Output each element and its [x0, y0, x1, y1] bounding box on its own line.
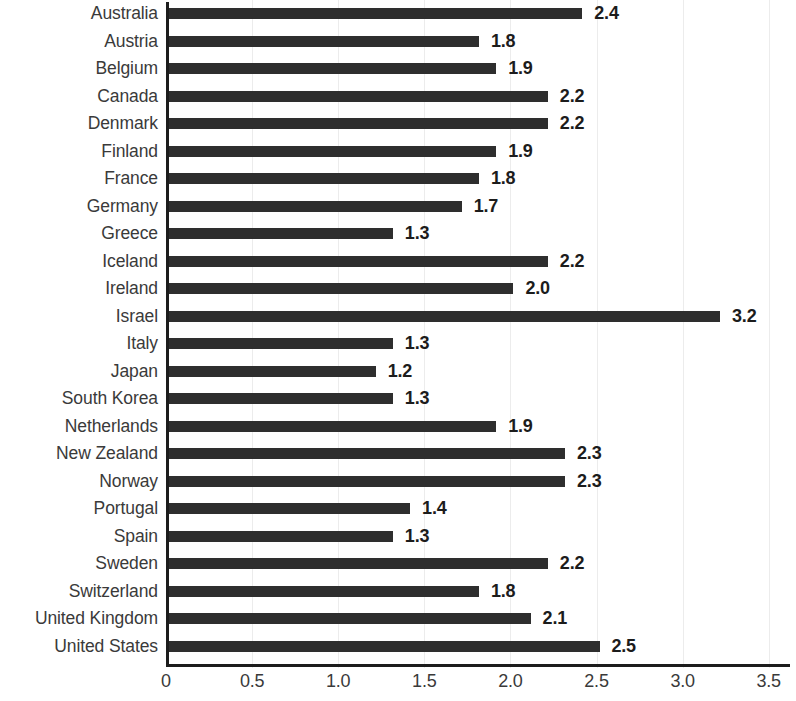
bar [169, 36, 479, 47]
bar-container [169, 578, 479, 606]
bar-container [169, 275, 513, 303]
x-axis-line [166, 664, 790, 667]
bar-value-label: 2.1 [543, 605, 567, 633]
bar [169, 476, 565, 487]
category-label: Greece [0, 220, 158, 248]
bar [169, 641, 600, 652]
category-label: United Kingdom [0, 605, 158, 633]
bar-container [169, 633, 600, 661]
bar-container [169, 138, 496, 166]
category-label: United States [0, 633, 158, 661]
bar-value-label: 2.2 [560, 248, 584, 276]
bar-container [169, 220, 393, 248]
x-tick-label: 1.0 [326, 671, 350, 692]
bar-row: Italy1.3 [0, 330, 796, 358]
bar-value-label: 1.2 [388, 358, 412, 386]
bar [169, 173, 479, 184]
category-label: Iceland [0, 248, 158, 276]
bar [169, 531, 393, 542]
category-label: New Zealand [0, 440, 158, 468]
bar-row: Finland1.9 [0, 138, 796, 166]
bar-row: Belgium1.9 [0, 55, 796, 83]
bar-value-label: 3.2 [732, 303, 756, 331]
x-tick-label: 2.5 [584, 671, 608, 692]
bar-container [169, 28, 479, 56]
bar [169, 366, 376, 377]
bar-container [169, 248, 548, 276]
bar-row: Australia2.4 [0, 0, 796, 28]
bar [169, 393, 393, 404]
category-label: Ireland [0, 275, 158, 303]
category-label: Germany [0, 193, 158, 221]
bar-container [169, 605, 531, 633]
bar-container [169, 440, 565, 468]
plot-area: Australia2.4Austria1.8Belgium1.9Canada2.… [0, 0, 796, 668]
category-label: Australia [0, 0, 158, 28]
bar-value-label: 1.9 [508, 413, 532, 441]
bar-container [169, 468, 565, 496]
bar [169, 613, 531, 624]
category-label: Belgium [0, 55, 158, 83]
bar [169, 283, 513, 294]
bar [169, 91, 548, 102]
bar-container [169, 110, 548, 138]
bar-container [169, 550, 548, 578]
bar-row: Canada2.2 [0, 83, 796, 111]
category-label: Portugal [0, 495, 158, 523]
bar-row: Israel3.2 [0, 303, 796, 331]
bar [169, 311, 720, 322]
bar-row: Iceland2.2 [0, 248, 796, 276]
bar-value-label: 1.7 [474, 193, 498, 221]
bar-value-label: 2.2 [560, 83, 584, 111]
bar-container [169, 385, 393, 413]
bar-row: Austria1.8 [0, 28, 796, 56]
bar-value-label: 2.0 [525, 275, 549, 303]
bar-value-label: 2.3 [577, 440, 601, 468]
bar-row: Sweden2.2 [0, 550, 796, 578]
bar-value-label: 2.5 [612, 633, 636, 661]
bar-row: Ireland2.0 [0, 275, 796, 303]
category-label: France [0, 165, 158, 193]
category-label: Japan [0, 358, 158, 386]
category-label: Israel [0, 303, 158, 331]
bar [169, 586, 479, 597]
bar-value-label: 1.3 [405, 330, 429, 358]
x-tick-label: 0 [161, 671, 171, 692]
bar-value-label: 2.3 [577, 468, 601, 496]
bar-container [169, 413, 496, 441]
bar-row: Japan1.2 [0, 358, 796, 386]
bar-container [169, 83, 548, 111]
bar-value-label: 1.9 [508, 55, 532, 83]
x-tick-label: 1.5 [412, 671, 436, 692]
bar-container [169, 303, 720, 331]
bar-value-label: 1.8 [491, 165, 515, 193]
bar-row: France1.8 [0, 165, 796, 193]
bar-container [169, 495, 410, 523]
bar-row: Portugal1.4 [0, 495, 796, 523]
category-label: Austria [0, 28, 158, 56]
bar-row: Denmark2.2 [0, 110, 796, 138]
category-label: Italy [0, 330, 158, 358]
bar [169, 63, 496, 74]
x-tick-label: 2.0 [498, 671, 522, 692]
category-label: Sweden [0, 550, 158, 578]
bar [169, 338, 393, 349]
bar-row: Germany1.7 [0, 193, 796, 221]
bar-row: Norway2.3 [0, 468, 796, 496]
x-axis-tick-labels: 00.51.01.52.02.53.03.5 [0, 671, 796, 701]
bar-row: United Kingdom2.1 [0, 605, 796, 633]
category-label: South Korea [0, 385, 158, 413]
bar [169, 448, 565, 459]
category-label: Norway [0, 468, 158, 496]
bar-row: United States2.5 [0, 633, 796, 661]
bar-row: Switzerland1.8 [0, 578, 796, 606]
horizontal-bar-chart: Australia2.4Austria1.8Belgium1.9Canada2.… [0, 0, 796, 701]
bar-value-label: 1.4 [422, 495, 446, 523]
bar-container [169, 55, 496, 83]
category-label: Netherlands [0, 413, 158, 441]
category-label: Denmark [0, 110, 158, 138]
bar-container [169, 165, 479, 193]
bar-value-label: 1.3 [405, 385, 429, 413]
bar-container [169, 0, 582, 28]
bar [169, 421, 496, 432]
